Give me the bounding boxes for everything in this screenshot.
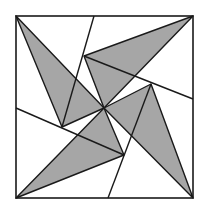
- pinwheel-figure: [0, 0, 207, 211]
- shaded-triangles: [16, 16, 193, 198]
